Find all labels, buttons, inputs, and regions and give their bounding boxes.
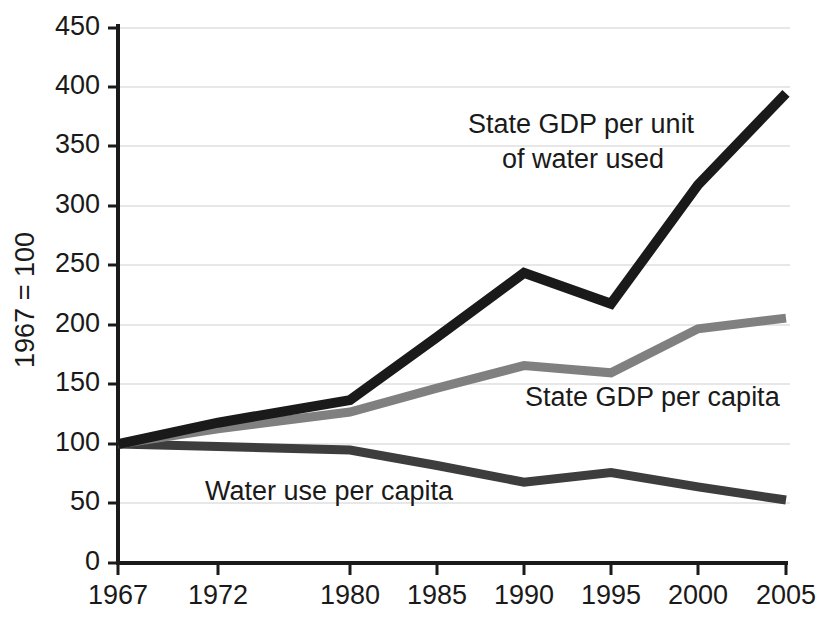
line-chart: 450 400 350 300 250 200 150 100 50 0 196… — [0, 0, 823, 621]
x-label-2005: 2005 — [756, 580, 816, 610]
annotation-gdp-per-capita: State GDP per capita — [525, 382, 781, 412]
x-label-1985: 1985 — [407, 580, 467, 610]
annotation-gdp-per-water-line1: State GDP per unit — [468, 109, 695, 139]
y-label-100: 100 — [55, 427, 100, 457]
y-label-400: 400 — [55, 70, 100, 100]
y-label-200: 200 — [55, 308, 100, 338]
annotation-water-use: Water use per capita — [205, 476, 454, 506]
x-label-1980: 1980 — [320, 580, 380, 610]
y-label-150: 150 — [55, 367, 100, 397]
x-label-1967: 1967 — [88, 580, 148, 610]
x-axis-labels: 1967 1972 1980 1985 1990 1995 2000 2005 — [88, 580, 816, 610]
chart-container: 450 400 350 300 250 200 150 100 50 0 196… — [0, 0, 823, 621]
y-label-300: 300 — [55, 189, 100, 219]
chart-background — [0, 0, 823, 621]
x-label-1990: 1990 — [494, 580, 554, 610]
x-label-1972: 1972 — [188, 580, 248, 610]
y-label-50: 50 — [70, 486, 100, 516]
x-label-1995: 1995 — [581, 580, 641, 610]
x-label-2000: 2000 — [668, 580, 728, 610]
y-label-250: 250 — [55, 248, 100, 278]
annotation-gdp-per-water-line2: of water used — [502, 144, 664, 174]
y-label-450: 450 — [55, 11, 100, 41]
y-axis-title: 1967 = 100 — [10, 232, 40, 368]
y-label-350: 350 — [55, 129, 100, 159]
y-label-0: 0 — [85, 546, 100, 576]
